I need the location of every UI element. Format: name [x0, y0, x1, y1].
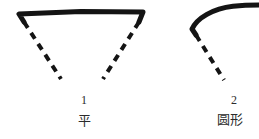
figure-1-left-dashed-leg: [24, 22, 61, 79]
figure-2-dashed-radius: [196, 35, 224, 80]
figure-1-solid-top-edge: [19, 12, 143, 23]
figure-2-number: 2: [212, 94, 256, 106]
figure-page: 1 平 2 圆形: [0, 0, 259, 139]
figure-1-right-dashed-leg: [103, 22, 139, 79]
figure-1-number: 1: [60, 94, 108, 106]
figure-1-drawing: [19, 12, 143, 80]
figure-2-solid-arc: [192, 5, 259, 35]
figure-2-drawing: [192, 5, 259, 80]
figure-1-label: 平: [60, 114, 108, 127]
figure-2-label: 圆形: [204, 113, 256, 126]
